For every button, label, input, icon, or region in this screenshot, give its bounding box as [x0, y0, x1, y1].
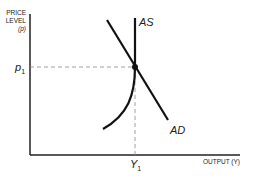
- y-axis-label-line1: PRICE: [6, 9, 27, 16]
- as-curve: [103, 18, 135, 129]
- equilibrium-point: [132, 64, 138, 70]
- y-axis-label-line3: (p): [18, 25, 26, 33]
- as-ad-diagram: PRICE LEVEL (p) OUTPUT (Y) AS AD p1 Y1: [0, 0, 254, 179]
- ad-label: AD: [169, 124, 185, 136]
- ad-curve: [107, 20, 168, 120]
- output-y1-label: Y1: [130, 158, 141, 172]
- x-axis-label: OUTPUT (Y): [203, 158, 240, 166]
- y-axis-label-line2: LEVEL: [6, 17, 27, 24]
- price-p1-label: p1: [14, 61, 25, 75]
- as-label: AS: [138, 16, 154, 28]
